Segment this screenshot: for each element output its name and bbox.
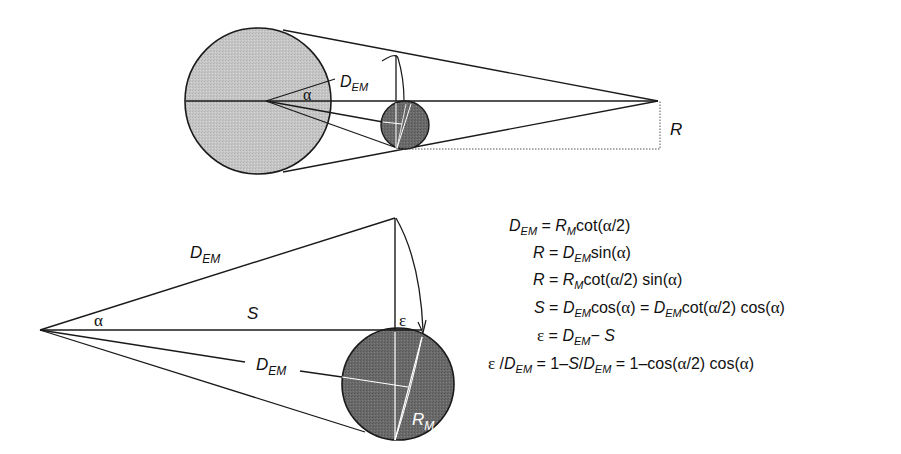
equation-6: ε /DEM = 1–S/DEM = 1–cos(α/2) cos(α): [488, 354, 754, 374]
lower-d-em-line-2: [300, 371, 342, 377]
rotation-arc: [382, 56, 404, 101]
equation-3: R = RMcot(α/2) sin(α): [533, 270, 682, 290]
label-d-em-top: DEM: [340, 73, 369, 93]
lower-d-em-line-1: [40, 330, 245, 362]
label-alpha-top: α: [303, 86, 312, 103]
equation-1: DEM = RMcot(α/2): [509, 216, 630, 236]
upper-tangent-line: [283, 30, 658, 101]
equation-4: S = DEMcos(α) = DEMcot(α/2) cos(α): [534, 298, 785, 318]
label-s: S: [247, 304, 259, 323]
lower-tangent-line: [283, 101, 658, 172]
lower-tangent: [40, 330, 365, 432]
label-d-em-lower: DEM: [256, 355, 286, 378]
equation-2: R = DEMsin(α): [533, 243, 631, 263]
label-d-em-upper: DEM: [190, 243, 220, 266]
bottom-diagram: DEM S α ε DEM RM: [40, 218, 454, 440]
equation-5: ε = DEM− S: [537, 326, 615, 346]
moon-circle-large: [342, 328, 454, 440]
top-diagram: DEM α R: [185, 28, 682, 174]
label-alpha-bottom: α: [94, 311, 103, 330]
lunar-geometry-figure: DEM α R DEM S α ε DEM RM: [0, 0, 901, 454]
label-epsilon: ε: [399, 311, 406, 330]
label-r: R: [670, 120, 682, 139]
